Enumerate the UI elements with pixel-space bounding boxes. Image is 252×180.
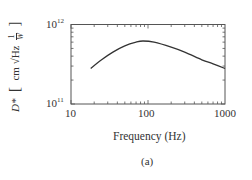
ytick-label-1e11: 1011 [46,96,64,109]
plot-frame [71,25,225,105]
xtick-label-100: 100 [138,107,155,119]
data-curve [91,41,225,69]
detectivity-chart: 1012 1011 10 100 1000 Frequency (Hz) D* … [0,0,252,180]
xtick-label-1000: 1000 [214,107,236,119]
x-axis-label: Frequency (Hz) [113,130,185,142]
y-axis-label: D* [ cm √Hz 1 W ] [6,22,25,112]
plot-area [0,0,252,180]
xtick-label-10: 10 [65,107,76,119]
axis-ticks [71,25,225,105]
ytick-label-1e12: 1012 [46,17,64,30]
figure-caption: (a) [141,155,153,167]
